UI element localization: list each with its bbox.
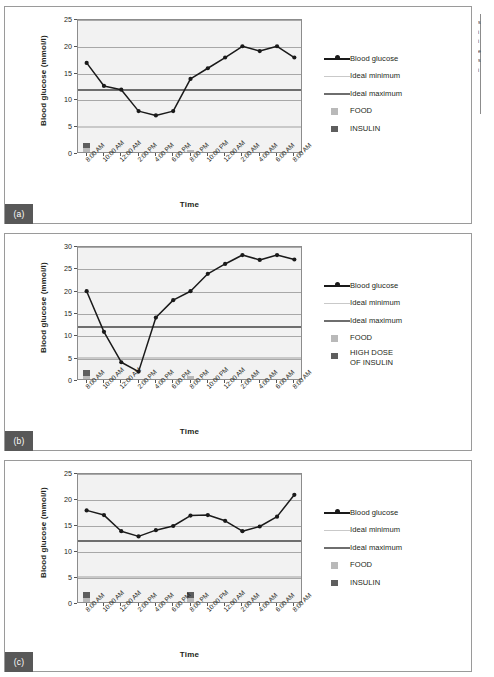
y-axis-tick-label: 10 — [50, 95, 72, 104]
legend-item[interactable]: FOOD — [324, 331, 402, 346]
legend-item-label: Blood glucose — [350, 281, 398, 291]
data-point — [154, 113, 158, 117]
legend-item[interactable]: FOOD — [324, 104, 402, 119]
legend-line-marker-icon — [324, 505, 350, 520]
y-axis-tick-mark — [74, 268, 77, 269]
legend-item[interactable]: Ideal minimum — [324, 69, 402, 84]
legend-ideal-maximum-line-icon — [324, 313, 350, 328]
y-axis-tick-label: 15 — [50, 69, 72, 78]
legend-item[interactable]: INSULIN — [324, 575, 402, 590]
y-axis-tick-label: 0 — [50, 149, 72, 158]
data-point — [136, 534, 140, 538]
y-axis-tick-label: 0 — [50, 599, 72, 608]
y-axis-tick-label: 20 — [50, 42, 72, 51]
data-point — [171, 524, 175, 528]
data-point — [154, 315, 158, 319]
y-axis-tick-mark — [74, 291, 77, 292]
blood-glucose-series — [78, 247, 302, 380]
y-axis-tick-mark — [74, 19, 77, 20]
data-point — [292, 257, 296, 261]
legend-item[interactable]: Ideal minimum — [324, 296, 402, 311]
y-axis-tick-label: 20 — [50, 287, 72, 296]
legend-item[interactable]: Ideal maximum — [324, 86, 402, 101]
data-point — [154, 528, 158, 532]
y-axis-tick-mark — [74, 577, 77, 578]
legend-line-marker-icon — [324, 278, 350, 293]
data-point — [275, 44, 279, 48]
y-axis-title: Blood glucose (mmol/l) — [39, 35, 48, 126]
legend-item[interactable]: Blood glucose — [324, 278, 402, 293]
y-axis-tick-mark — [74, 313, 77, 314]
legend-ideal-minimum-line-icon — [324, 69, 350, 84]
y-axis-title: Blood glucose (mmol/l) — [39, 487, 48, 578]
chart-c: 05101520258:00 AM10:00 AM12:00 AM2:00 PM… — [5, 461, 471, 671]
legend-item-label: HIGH DOSE OF INSULIN — [350, 348, 393, 368]
data-point — [85, 289, 89, 293]
legend-insulin-swatch-icon — [324, 348, 350, 370]
data-point — [102, 330, 106, 334]
legend-item-label: Ideal minimum — [350, 298, 400, 308]
legend-item[interactable]: Ideal maximum — [324, 540, 402, 555]
data-point — [119, 529, 123, 533]
chart-legend: Blood glucoseIdeal minimumIdeal maximumF… — [324, 51, 402, 139]
y-axis-tick-mark — [74, 46, 77, 47]
legend-line-marker-icon — [324, 51, 350, 66]
legend-item[interactable]: Ideal minimum — [324, 523, 402, 538]
data-point — [258, 258, 262, 262]
legend-insulin-swatch-icon — [324, 121, 350, 136]
legend-item-label: Blood glucose — [350, 54, 398, 64]
legend-item[interactable]: Blood glucose — [324, 51, 402, 66]
data-point — [240, 253, 244, 257]
legend-item-label: FOOD — [350, 333, 372, 343]
y-axis-tick-label: 10 — [50, 331, 72, 340]
y-axis-tick-mark — [74, 335, 77, 336]
chart-b: 0510152025308:00 AM10:00 AM12:00 AM2:00 … — [5, 234, 471, 450]
blood-glucose-series — [78, 20, 302, 153]
legend-ideal-minimum-line-icon — [324, 296, 350, 311]
data-point — [102, 513, 106, 517]
x-axis-title: Time — [77, 200, 302, 209]
data-point — [171, 298, 175, 302]
legend-item-label: Ideal maximum — [350, 316, 402, 326]
y-axis-tick-label: 20 — [50, 495, 72, 504]
legend-food-swatch-icon — [324, 104, 350, 119]
data-point — [136, 109, 140, 113]
y-axis-title: Blood glucose (mmol/l) — [39, 262, 48, 353]
legend-item-label: Ideal minimum — [350, 525, 400, 535]
panel-label-c: (c) — [5, 652, 33, 672]
chart-legend: Blood glucoseIdeal minimumIdeal maximumF… — [324, 505, 402, 593]
y-axis-tick-mark — [74, 246, 77, 247]
legend-item[interactable]: INSULIN — [324, 121, 402, 136]
legend-item-label: FOOD — [350, 560, 372, 570]
legend-item[interactable]: FOOD — [324, 558, 402, 573]
data-point — [240, 44, 244, 48]
x-axis-title: Time — [77, 427, 302, 436]
data-point — [223, 519, 227, 523]
legend-item-label: Ideal minimum — [350, 71, 400, 81]
legend-item-label: Ideal maximum — [350, 543, 402, 553]
legend-item[interactable]: Blood glucose — [324, 505, 402, 520]
y-axis-tick-mark — [74, 525, 77, 526]
y-axis-tick-label: 0 — [50, 376, 72, 385]
legend-item-label: Blood glucose — [350, 508, 398, 518]
data-point — [258, 524, 262, 528]
data-point — [85, 508, 89, 512]
legend-ideal-minimum-line-icon — [324, 523, 350, 538]
legend-ideal-maximum-line-icon — [324, 86, 350, 101]
data-point — [206, 513, 210, 517]
data-point — [275, 253, 279, 257]
legend-item[interactable]: HIGH DOSE OF INSULIN — [324, 348, 402, 370]
data-point — [102, 84, 106, 88]
data-point — [292, 493, 296, 497]
legend-item-label: INSULIN — [350, 124, 380, 134]
legend-item-label: Ideal maximum — [350, 89, 402, 99]
legend-item[interactable]: Ideal maximum — [324, 313, 402, 328]
plot-area — [77, 19, 302, 153]
legend-food-swatch-icon — [324, 331, 350, 346]
legend-item-label: FOOD — [350, 106, 372, 116]
y-axis-tick-label: 5 — [50, 122, 72, 131]
data-point — [171, 109, 175, 113]
data-point — [85, 61, 89, 65]
y-axis-tick-mark — [74, 499, 77, 500]
y-axis-tick-label: 15 — [50, 309, 72, 318]
